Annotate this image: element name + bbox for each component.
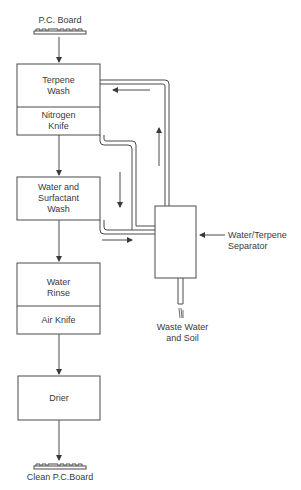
output-label: Clean P.C.Board bbox=[15, 472, 105, 483]
terpene-wash-label: Terpene Wash bbox=[17, 75, 100, 97]
separator-box bbox=[155, 206, 196, 278]
nitrogen-knife-line-2: Knife bbox=[17, 121, 100, 132]
waste-line-2: and Soil bbox=[150, 333, 215, 344]
pc-board-icon bbox=[34, 29, 86, 34]
drier-label: Drier bbox=[18, 393, 100, 404]
waste-line-1: Waste Water bbox=[150, 322, 215, 333]
separator-line-1: Water/Terpene bbox=[228, 230, 301, 241]
nitrogen-knife-label: Nitrogen Knife bbox=[17, 110, 100, 132]
nitrogen-knife-line-1: Nitrogen bbox=[17, 110, 100, 121]
separator-line-2: Separator bbox=[228, 241, 301, 252]
waste-label: Waste Water and Soil bbox=[150, 322, 215, 344]
input-label: P.C. Board bbox=[20, 15, 100, 26]
clean-pc-board-icon bbox=[34, 464, 86, 469]
water-surfactant-label: Water and Surfactant Wash bbox=[17, 182, 100, 215]
water-surfactant-line-2: Surfactant bbox=[17, 193, 100, 204]
water-surfactant-line-3: Wash bbox=[17, 204, 100, 215]
terpene-wash-line-1: Terpene bbox=[17, 75, 100, 86]
water-surfactant-line-1: Water and bbox=[17, 182, 100, 193]
water-rinse-line-1: Water bbox=[17, 277, 100, 288]
water-rinse-line-2: Rinse bbox=[17, 288, 100, 299]
separator-label: Water/Terpene Separator bbox=[228, 230, 301, 252]
air-knife-label: Air Knife bbox=[17, 315, 100, 326]
water-rinse-label: Water Rinse bbox=[17, 277, 100, 299]
terpene-wash-line-2: Wash bbox=[17, 86, 100, 97]
